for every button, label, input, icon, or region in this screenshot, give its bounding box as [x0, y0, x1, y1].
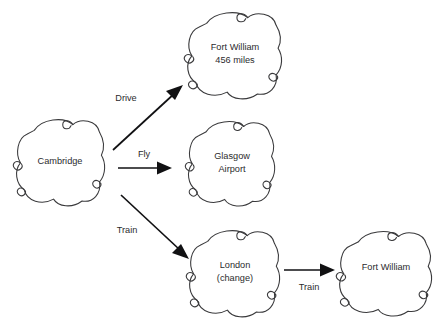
node-cambridge[interactable]: Cambridge [13, 120, 104, 206]
node-london-change-label-line-1: (change) [217, 273, 253, 283]
train-edge-2-arrowhead [320, 264, 335, 277]
node-glasgow-airport-label-line-1: Airport [218, 164, 246, 174]
drive-edge-label: Drive [115, 93, 136, 103]
fly-edge-arrowhead [157, 162, 172, 175]
cloud-curl-left-lower [340, 299, 349, 306]
fly-edge-label: Fly [138, 149, 151, 159]
node-fort-william-drive-label-line-0: Fort William [211, 42, 260, 52]
cloud-shape [340, 232, 432, 316]
train-edge: Train [117, 195, 189, 259]
node-london-change-label-line-0: London [220, 260, 251, 270]
node-cambridge-label-line-0: Cambridge [38, 156, 83, 166]
node-fort-william-drive[interactable]: Fort William 456 miles [184, 13, 281, 99]
node-fort-william-train-label-line-0: Fort William [362, 262, 411, 272]
node-glasgow-airport-label-line-0: Glasgow [214, 151, 250, 161]
train-edge-2-label: Train [299, 282, 320, 292]
cloud-curl-left-lower [17, 188, 25, 196]
cloud-curl-left-lower [189, 189, 197, 196]
route-diagram: Drive Fly Train Train Cambridge [0, 0, 437, 325]
node-fort-william-drive-label-line-1: 456 miles [215, 55, 255, 65]
train-edge-arrowhead [172, 244, 189, 259]
node-glasgow-airport[interactable]: Glasgow Airport [185, 122, 274, 206]
fly-edge: Fly [118, 149, 172, 174]
train-edge-2: Train [284, 264, 335, 293]
node-london-change[interactable]: London (change) [186, 231, 279, 317]
train-edge-line [121, 195, 180, 250]
train-edge-label: Train [117, 225, 138, 235]
cloud-curl-left-lower [188, 81, 197, 89]
node-fort-william-train[interactable]: Fort William [336, 232, 431, 316]
drive-edge-arrowhead [166, 85, 183, 100]
drive-edge: Drive [113, 85, 183, 150]
cloud-curl-left-lower [190, 299, 198, 307]
